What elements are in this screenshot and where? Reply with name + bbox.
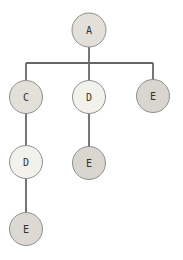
node-label-A: A — [86, 25, 92, 36]
tree-node-D1: D — [73, 81, 106, 114]
tree-node-E2: E — [73, 147, 106, 180]
node-label-D1: D — [86, 92, 92, 103]
node-label-E1: E — [150, 91, 156, 102]
node-label-D2: D — [23, 157, 29, 168]
tree-diagram-canvas: ACDEDEE — [0, 0, 183, 260]
node-label-E3: E — [23, 224, 29, 235]
tree-diagram: ACDEDEE — [0, 0, 183, 260]
tree-node-E3: E — [10, 213, 43, 246]
node-label-C: C — [23, 92, 29, 103]
tree-node-A: A — [72, 13, 106, 47]
tree-node-D2: D — [10, 146, 43, 179]
node-label-E2: E — [86, 158, 92, 169]
tree-node-C: C — [10, 81, 43, 114]
tree-node-E1: E — [137, 80, 170, 113]
